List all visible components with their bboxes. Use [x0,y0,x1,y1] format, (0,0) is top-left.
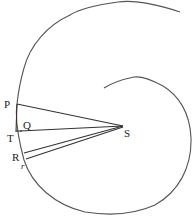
segment-PS [17,104,123,126]
label-T: T [7,132,14,144]
label-S: S [124,127,130,139]
orbit-diagram: P Q T R r S [0,0,194,222]
label-R: R [12,151,20,163]
label-r: r [21,161,25,171]
segment-rS [26,127,123,159]
label-P: P [4,98,10,110]
spiral-curve [16,1,191,214]
label-Q: Q [23,119,31,131]
